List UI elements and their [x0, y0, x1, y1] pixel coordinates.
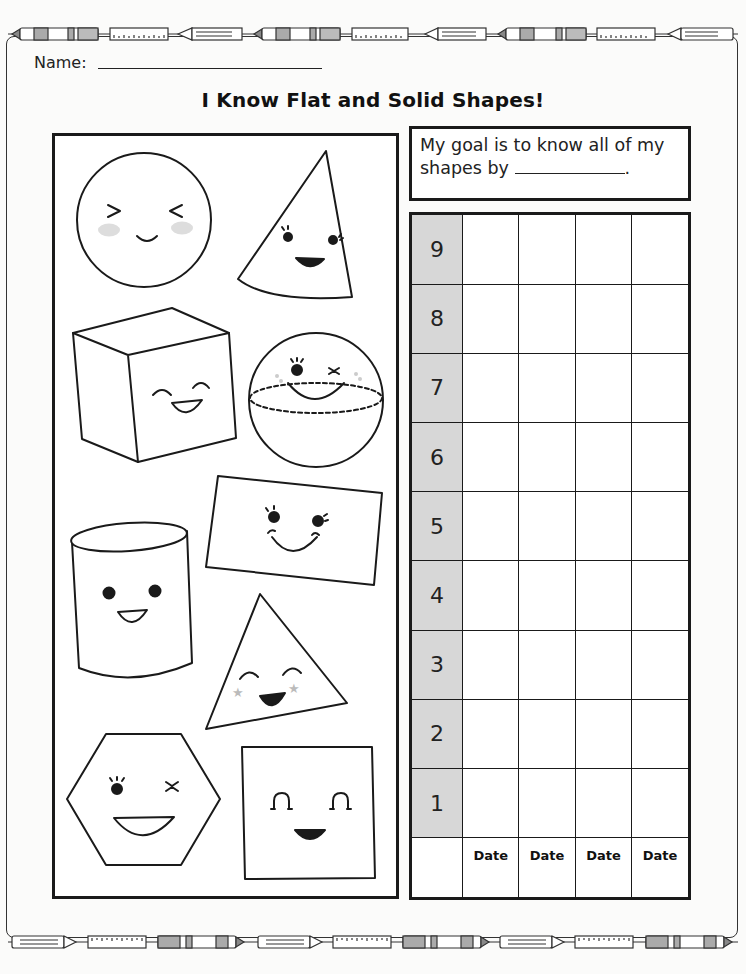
pencil-icon — [178, 28, 242, 40]
chart-cell[interactable] — [463, 423, 519, 492]
chart-cell[interactable] — [632, 215, 688, 284]
date-row: Date Date Date Date — [412, 838, 688, 897]
pencil-icon — [425, 28, 486, 40]
crayon-icon — [254, 28, 340, 40]
cylinder-shape-icon — [70, 519, 192, 677]
level-label: 8 — [412, 284, 463, 353]
chart-cell[interactable] — [632, 492, 688, 561]
pencil-icon — [500, 936, 564, 948]
level-label: 4 — [412, 561, 463, 630]
hexagon-shape-icon — [67, 734, 220, 865]
level-row-2: 2 — [412, 699, 688, 768]
level-label: 1 — [412, 769, 463, 838]
chart-cell[interactable] — [575, 284, 631, 353]
date-cell[interactable]: Date — [519, 838, 575, 897]
chart-cell[interactable] — [463, 353, 519, 422]
circle-shape-icon — [77, 153, 211, 287]
crayon-icon — [158, 936, 244, 948]
pencil-icon — [668, 28, 733, 40]
level-row-5: 5 — [412, 492, 688, 561]
chart-cell[interactable] — [575, 561, 631, 630]
triangle-shape-icon: ★ ★ — [206, 594, 347, 729]
date-cell[interactable]: Date — [632, 838, 688, 897]
level-label: 7 — [412, 353, 463, 422]
chart-cell[interactable] — [632, 423, 688, 492]
level-row-9: 9 — [412, 215, 688, 284]
level-row-8: 8 — [412, 284, 688, 353]
level-row-1: 1 — [412, 769, 688, 838]
chart-cell[interactable] — [463, 630, 519, 699]
chart-cell[interactable] — [463, 215, 519, 284]
ruler-icon — [597, 28, 655, 40]
ruler-icon — [333, 936, 391, 948]
crayon-icon — [646, 936, 732, 948]
chart-cell[interactable] — [463, 769, 519, 838]
level-label: 5 — [412, 492, 463, 561]
chart-cell[interactable] — [463, 284, 519, 353]
goal-box: My goal is to know all of my shapes by . — [409, 126, 691, 201]
pencil-icon — [258, 936, 322, 948]
corner-cell — [412, 838, 463, 897]
chart-cell[interactable] — [575, 630, 631, 699]
chart-cell[interactable] — [575, 699, 631, 768]
svg-text:★: ★ — [288, 681, 300, 696]
cube-shape-icon — [73, 308, 236, 462]
sphere-shape-icon — [249, 333, 383, 467]
chart-cell[interactable] — [632, 769, 688, 838]
cone-shape-icon — [238, 151, 352, 298]
chart-cell[interactable] — [632, 284, 688, 353]
ruler-icon — [352, 28, 408, 40]
chart-cell[interactable] — [575, 215, 631, 284]
chart-cell[interactable] — [463, 492, 519, 561]
school-supplies-border-top — [0, 22, 746, 46]
chart-cell[interactable] — [519, 492, 575, 561]
chart-cell[interactable] — [519, 353, 575, 422]
crayon-icon — [498, 28, 586, 40]
chart-cell[interactable] — [575, 769, 631, 838]
chart-cell[interactable] — [575, 353, 631, 422]
goal-date-field[interactable] — [515, 158, 625, 174]
crayon-icon — [12, 28, 98, 40]
chart-cell[interactable] — [632, 353, 688, 422]
chart-cell[interactable] — [463, 561, 519, 630]
pencil-icon — [12, 936, 76, 948]
crayon-icon — [403, 936, 489, 948]
ruler-icon — [88, 936, 146, 948]
name-field[interactable] — [98, 68, 322, 69]
progress-chart: 9 8 7 6 5 4 3 — [409, 212, 691, 900]
goal-period: . — [625, 158, 631, 178]
chart-cell[interactable] — [632, 630, 688, 699]
chart-cell[interactable] — [519, 769, 575, 838]
name-label: Name: — [34, 53, 87, 72]
rectangle-shape-icon — [206, 476, 382, 585]
level-label: 9 — [412, 215, 463, 284]
level-label: 2 — [412, 699, 463, 768]
chart-cell[interactable] — [519, 561, 575, 630]
chart-cell[interactable] — [575, 492, 631, 561]
ruler-icon — [110, 28, 168, 40]
date-cell[interactable]: Date — [463, 838, 519, 897]
level-row-3: 3 — [412, 630, 688, 699]
chart-cell[interactable] — [519, 630, 575, 699]
chart-cell[interactable] — [519, 699, 575, 768]
square-shape-icon — [242, 747, 375, 879]
level-row-4: 4 — [412, 561, 688, 630]
page-title: I Know Flat and Solid Shapes! — [0, 88, 746, 112]
school-supplies-border-bottom — [0, 930, 746, 954]
level-label: 3 — [412, 630, 463, 699]
ruler-icon — [575, 936, 633, 948]
level-label: 6 — [412, 423, 463, 492]
chart-cell[interactable] — [519, 284, 575, 353]
shapes-illustration: ★ ★ — [52, 133, 399, 899]
chart-cell[interactable] — [632, 699, 688, 768]
chart-cell[interactable] — [632, 561, 688, 630]
chart-cell[interactable] — [519, 215, 575, 284]
svg-text:★: ★ — [232, 685, 244, 700]
level-row-6: 6 — [412, 423, 688, 492]
date-cell[interactable]: Date — [575, 838, 631, 897]
level-row-7: 7 — [412, 353, 688, 422]
progress-table: 9 8 7 6 5 4 3 — [412, 215, 688, 897]
chart-cell[interactable] — [575, 423, 631, 492]
chart-cell[interactable] — [519, 423, 575, 492]
chart-cell[interactable] — [463, 699, 519, 768]
